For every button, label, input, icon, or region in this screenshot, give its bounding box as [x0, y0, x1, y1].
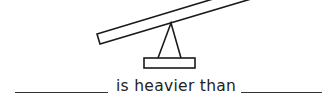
answer-blank-left[interactable]: [15, 92, 108, 93]
answer-blank-right[interactable]: [241, 92, 322, 93]
sentence-text: is heavier than: [116, 77, 236, 95]
seesaw-fulcrum: [158, 23, 181, 58]
seesaw-plank: [97, 0, 251, 44]
seesaw-base: [144, 58, 195, 68]
